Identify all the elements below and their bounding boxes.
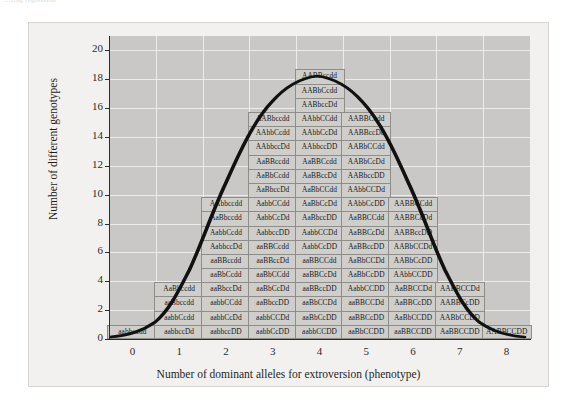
genotype-box: aabbCCDd (248, 311, 298, 325)
genotype-box: aabbCCDD (295, 325, 345, 339)
y-tick-label: 16 (77, 100, 103, 112)
genotype-box: AaBbccdd (154, 282, 204, 296)
y-tick-label: 12 (77, 158, 103, 170)
genotype-box: aabbCcDd (201, 311, 251, 325)
genotype-box: AaBbCCDD (388, 311, 438, 325)
genotype-box: AAbbCcDD (341, 197, 391, 211)
genotype-box: AAbbCcdd (248, 126, 298, 140)
y-axis-line (109, 36, 110, 340)
genotype-box: AAbbCCdd (295, 112, 345, 126)
x-tick-label: 0 (117, 345, 147, 357)
genotype-box: AABBCcDd (388, 211, 438, 225)
x-tick-label: 8 (492, 345, 522, 357)
genotype-box: aaBBccDd (248, 254, 298, 268)
genotype-box: AABBccDD (388, 226, 438, 240)
x-tick-label: 3 (258, 345, 288, 357)
x-tick-label: 1 (164, 345, 194, 357)
y-tick-label: 2 (77, 302, 103, 314)
genotype-box: AaBbCcDd (295, 197, 345, 211)
y-tick-label: 10 (77, 187, 103, 199)
genotype-box: AaBbccdd (201, 211, 251, 225)
gridline-horizontal (109, 50, 530, 51)
genotype-box: aaBbCCDD (341, 325, 391, 339)
genotype-column: AaBbccddaaBbccddaabbCcddaabbccDd (154, 282, 204, 339)
genotype-box: AABBCcdd (341, 112, 391, 126)
y-tick-label: 18 (77, 71, 103, 83)
genotype-column: AABBCCddAABBCcDdAABBccDDAABbCCDdAABbCcDD… (388, 197, 438, 339)
genotype-box: aaBbCCdd (248, 268, 298, 282)
genotype-box: aabbccDD (201, 325, 251, 339)
y-tick-label: 8 (77, 216, 103, 228)
genotype-box: AabbCcDD (295, 240, 345, 254)
x-tick-label: 2 (211, 345, 241, 357)
genotype-box: aabbccdd (107, 325, 157, 339)
x-axis-line (109, 339, 531, 340)
y-tick-label: 0 (77, 331, 103, 343)
genotype-box: AABBCCDD (482, 325, 532, 339)
genotype-box: AABBccdd (295, 69, 345, 83)
x-tick-label: 7 (445, 345, 475, 357)
genotype-box: AaBBCcdd (295, 155, 345, 169)
genotype-box: aaBBccDD (295, 282, 345, 296)
genotype-box: aaBBCCdd (295, 254, 345, 268)
genotype-box: AaBBCcDD (388, 296, 438, 310)
genotype-box: AabbCcDd (248, 211, 298, 225)
genotype-box: AABbccdd (248, 112, 298, 126)
genotype-box: aaBbccDd (201, 282, 251, 296)
genotype-column: AABbccddAAbbCcddAAbbccDdAaBBccddAaBbCcdd… (248, 112, 298, 339)
x-tick-label: 5 (351, 345, 381, 357)
genotype-box: AAbbCCDd (341, 183, 391, 197)
genotype-box: aabbCcdd (154, 311, 204, 325)
genotype-box: aaBbCCDd (295, 296, 345, 310)
x-axis-label: Number of dominant alleles for extrovers… (29, 368, 548, 380)
genotype-box: AaBbccDD (295, 211, 345, 225)
x-tick-label: 4 (305, 345, 335, 357)
genotype-column: AABBCCDD (482, 325, 532, 339)
genotype-box: aaBBCcDd (295, 268, 345, 282)
genotype-box: AaBbCcdd (248, 169, 298, 183)
genotype-box: AabbCCdd (248, 197, 298, 211)
genotype-box: aaBbCcdd (201, 268, 251, 282)
genotype-box: AabbCCDd (295, 226, 345, 240)
genotype-column: AABBccddAABbCcddAABbccDdAAbbCCddAAbbCcDd… (295, 69, 345, 339)
genotype-box: AabbCCDD (341, 282, 391, 296)
genotype-box: AABbCcdd (295, 84, 345, 98)
y-axis-label: Number of different genotypes (47, 39, 59, 259)
genotype-box: AABbCCDD (435, 311, 485, 325)
genotype-column: AABBCCDdAABBCcDDAABbCCDDAaBBCCDD (435, 282, 485, 339)
genotype-box: AABbCcDd (341, 155, 391, 169)
genotype-box: aaBBCcdd (248, 240, 298, 254)
genotype-box: AabbccDd (201, 240, 251, 254)
genotype-box: aabbccDd (154, 325, 204, 339)
genotype-box: aaBbCcDD (295, 311, 345, 325)
genotype-box: AABbCCdd (341, 140, 391, 154)
genotype-box: AABBccDd (341, 126, 391, 140)
genotype-box: AaBBccDd (295, 169, 345, 183)
genotype-box: AAbbccdd (201, 197, 251, 211)
clipped-header-text: …ring regression (4, 0, 56, 4)
genotype-box: aaBbCcDd (248, 282, 298, 296)
genotype-box: aaBbccDD (248, 296, 298, 310)
genotype-box: AaBBCCdd (341, 211, 391, 225)
genotype-column: AABBCcddAABBccDdAABbCCddAABbCcDdAABbccDD… (341, 112, 391, 339)
genotype-box: AABbccDd (295, 98, 345, 112)
genotype-box: AaBBccdd (248, 155, 298, 169)
genotype-box: aabbCcDD (248, 325, 298, 339)
genotype-box: aaBBCCDd (341, 296, 391, 310)
genotype-box: AABBCCDd (435, 282, 485, 296)
genotype-box: AaBBCCDD (435, 325, 485, 339)
y-tick-label: 4 (77, 273, 103, 285)
genotype-box: AaBbccDd (248, 183, 298, 197)
genotype-box: AabbccDD (248, 226, 298, 240)
genotype-box: AaBBCcDd (341, 226, 391, 240)
genotype-box: aaBBCCDD (388, 325, 438, 339)
genotype-box: AABbccDD (341, 169, 391, 183)
genotype-box: aabbCCdd (201, 296, 251, 310)
x-tick-label: 6 (398, 345, 428, 357)
y-tick-label: 6 (77, 244, 103, 256)
y-tick-label: 20 (77, 42, 103, 54)
genotype-box: AABBCCdd (388, 197, 438, 211)
genotype-column: AAbbccddAaBbccddAabbCcddAabbccDdaaBBccdd… (201, 197, 251, 339)
genotype-box: aaBBccdd (201, 254, 251, 268)
genotype-box: AaBBccDD (341, 240, 391, 254)
